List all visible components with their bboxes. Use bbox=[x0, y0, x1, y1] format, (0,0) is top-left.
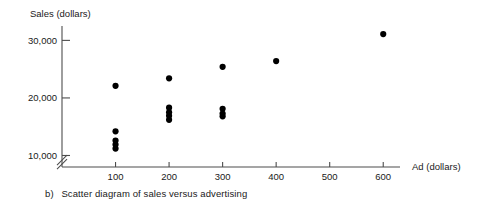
caption-text: Scatter diagram of sales versus advertis… bbox=[61, 188, 247, 199]
y-tick-label-20,000: 20,000 bbox=[28, 92, 57, 103]
data-point bbox=[112, 83, 118, 89]
x-tick-label-300: 300 bbox=[215, 171, 231, 182]
data-point bbox=[112, 128, 118, 134]
x-tick-label-100: 100 bbox=[108, 171, 124, 182]
data-point bbox=[220, 113, 226, 119]
caption-label: b) bbox=[45, 188, 54, 199]
data-point bbox=[220, 64, 226, 70]
data-point bbox=[112, 145, 118, 151]
data-point bbox=[380, 31, 386, 37]
data-point bbox=[166, 117, 172, 123]
y-tick-label-30,000: 30,000 bbox=[28, 35, 57, 46]
y-tick-label-10,000: 10,000 bbox=[28, 150, 57, 161]
scatter-plot-canvas: Sales (dollars)100200300400500600Ad (dol… bbox=[0, 0, 478, 210]
x-tick-label-400: 400 bbox=[268, 171, 284, 182]
data-point bbox=[166, 75, 172, 81]
y-axis-label: Sales (dollars) bbox=[30, 8, 91, 19]
x-tick-label-500: 500 bbox=[322, 171, 338, 182]
data-point bbox=[273, 58, 279, 64]
x-axis-label: Ad (dollars) bbox=[412, 161, 461, 172]
x-tick-label-200: 200 bbox=[161, 171, 177, 182]
x-tick-label-600: 600 bbox=[375, 171, 391, 182]
figure-caption: b) Scatter diagram of sales versus adver… bbox=[45, 188, 247, 199]
scatter-diagram-figure: Sales (dollars)100200300400500600Ad (dol… bbox=[0, 0, 478, 210]
